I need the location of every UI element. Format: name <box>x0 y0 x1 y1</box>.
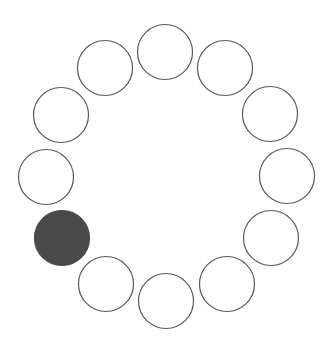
empty-circle <box>19 150 74 205</box>
empty-circle <box>244 211 299 266</box>
empty-circle <box>198 41 253 96</box>
empty-circle <box>200 257 255 312</box>
empty-circle <box>243 87 298 142</box>
filled-circle <box>35 211 90 266</box>
empty-circle <box>34 88 89 143</box>
circle-ring-diagram <box>0 0 326 348</box>
empty-circle <box>79 257 134 312</box>
empty-circle <box>260 149 315 204</box>
empty-circle <box>78 41 133 96</box>
empty-circle <box>139 274 194 329</box>
empty-circle <box>138 25 193 80</box>
